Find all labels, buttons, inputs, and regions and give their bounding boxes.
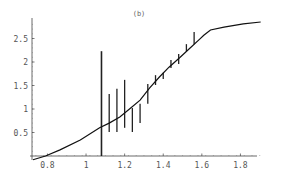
y-tick-label: 0.5 [14, 129, 29, 138]
y-tick-label: 1.5 [14, 82, 29, 91]
chart: (b) 0.811.21.41.61.8 0.511.522.5 [0, 0, 281, 174]
x-tick-label: 0.8 [40, 161, 55, 170]
error-bars [101, 32, 194, 156]
x-tick-label: 1.4 [156, 161, 171, 170]
chart-title: (b) [133, 10, 146, 18]
y-tick-label: 2 [23, 58, 28, 67]
x-tick-label: 1 [84, 161, 89, 170]
axes [30, 18, 260, 160]
y-tick-label: 1 [23, 105, 28, 114]
x-tick-label: 1.6 [195, 161, 210, 170]
y-tick-label: 2.5 [14, 35, 29, 44]
y-axis-ticks: 0.511.522.5 [14, 35, 35, 138]
x-tick-label: 1.8 [233, 161, 248, 170]
x-tick-label: 1.2 [117, 161, 132, 170]
model-curve [33, 22, 261, 160]
